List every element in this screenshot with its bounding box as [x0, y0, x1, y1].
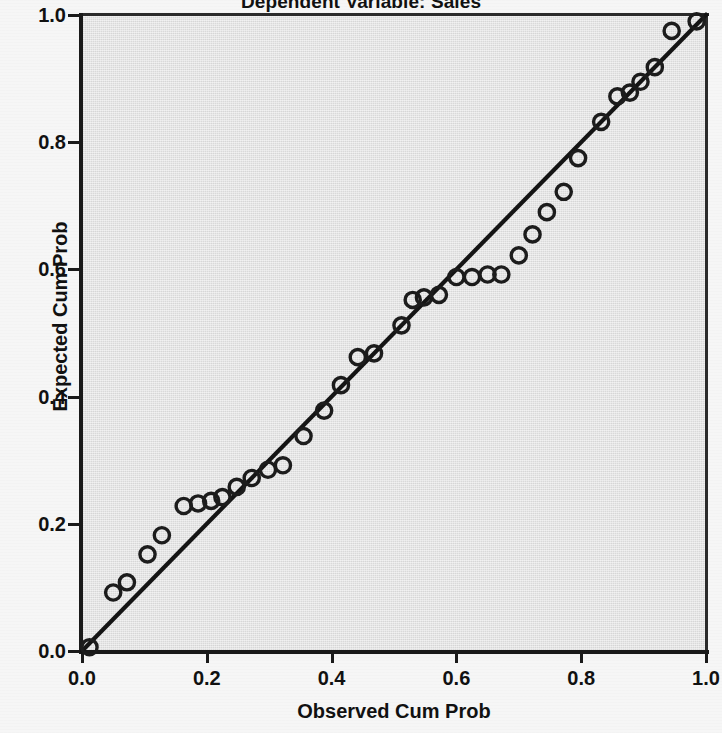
- y-tick-label: 0.8: [6, 132, 66, 152]
- data-point: [539, 205, 554, 220]
- data-point: [511, 248, 526, 263]
- y-tick-label: 1.0: [6, 5, 66, 25]
- x-tick-mark: [331, 651, 334, 663]
- data-point: [556, 184, 571, 199]
- x-tick-label: 0.4: [297, 668, 367, 688]
- reference-line: [82, 15, 706, 651]
- y-tick-mark: [68, 14, 80, 17]
- x-tick-mark: [455, 651, 458, 663]
- data-point: [525, 227, 540, 242]
- data-point: [664, 23, 679, 38]
- chart-title: Dependent Variable: Sales: [0, 0, 722, 13]
- x-tick-label: 0.0: [47, 668, 117, 688]
- x-tick-mark: [580, 651, 583, 663]
- data-point: [106, 585, 121, 600]
- y-tick-label: 0.0: [6, 641, 66, 661]
- y-tick-mark: [68, 650, 80, 653]
- y-tick-mark: [68, 141, 80, 144]
- x-tick-label: 1.0: [671, 668, 722, 688]
- data-point: [119, 575, 134, 590]
- data-point: [176, 498, 191, 513]
- data-point: [154, 528, 169, 543]
- x-tick-mark: [705, 651, 708, 663]
- data-point: [350, 350, 365, 365]
- data-point: [140, 547, 155, 562]
- data-point: [570, 151, 585, 166]
- x-axis-title: Observed Cum Prob: [82, 700, 706, 723]
- pp-plot-figure: Dependent Variable: Sales 0.00.20.40.60.…: [0, 0, 722, 733]
- data-point: [275, 458, 290, 473]
- data-point: [296, 428, 311, 443]
- y-tick-label: 0.2: [6, 514, 66, 534]
- y-axis-title: Expected Cum Prob: [49, 157, 72, 477]
- x-tick-label: 0.6: [421, 668, 491, 688]
- x-tick-label: 0.8: [546, 668, 616, 688]
- data-layer: [82, 15, 706, 651]
- data-point: [464, 269, 479, 284]
- y-tick-mark: [68, 523, 80, 526]
- x-tick-label: 0.2: [172, 668, 242, 688]
- x-tick-mark: [206, 651, 209, 663]
